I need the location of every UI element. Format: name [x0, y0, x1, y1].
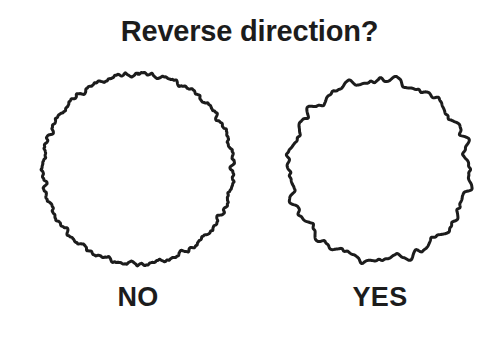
- figure-label-no: NO: [18, 282, 258, 312]
- figure-yes: YES: [268, 58, 492, 328]
- noisy-circle-no-path: [41, 72, 234, 265]
- image-canvas: Reverse direction? NO YES: [0, 0, 499, 340]
- noisy-circle-yes: [268, 58, 492, 280]
- noisy-circle-no: [18, 58, 258, 280]
- page-title: Reverse direction?: [0, 14, 499, 48]
- noisy-circle-yes-path: [286, 76, 472, 263]
- figure-no: NO: [18, 58, 258, 328]
- figure-label-yes: YES: [268, 282, 492, 312]
